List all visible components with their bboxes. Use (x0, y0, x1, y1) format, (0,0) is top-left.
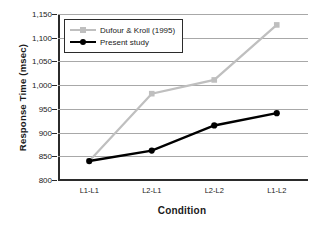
data-point-0-3 (274, 22, 280, 28)
data-point-1-1 (149, 147, 155, 153)
y-tick-mark (52, 38, 57, 39)
y-tick-mark (52, 133, 57, 134)
legend-item-series-1: Present study (70, 36, 175, 48)
x-tick-label: L1-L2 (247, 186, 307, 195)
legend-marker-circle-icon (80, 39, 86, 45)
y-tick-mark (52, 85, 57, 86)
x-tick-label: L2-L1 (122, 186, 182, 195)
legend-item-series-0: Dufour & Kroll (1995) (70, 24, 175, 36)
y-tick-mark (52, 180, 57, 181)
x-tick-label: L1-L1 (59, 186, 119, 195)
data-point-1-3 (274, 110, 280, 116)
data-point-1-0 (86, 158, 92, 164)
x-axis-title: Condition (58, 205, 306, 216)
data-point-0-2 (211, 77, 217, 83)
series-line-1 (89, 113, 277, 161)
legend-swatch-square-icon (70, 25, 96, 35)
chart-legend: Dufour & Kroll (1995) Present study (64, 19, 183, 53)
legend-swatch-circle-icon (70, 37, 96, 47)
y-tick-mark (52, 14, 57, 15)
data-point-0-1 (149, 91, 155, 97)
x-tick-label: L2-L2 (184, 186, 244, 195)
chart-container: Response Time (msec) 8008509009501,0001,… (0, 0, 319, 229)
legend-label-series-1: Present study (100, 38, 149, 47)
legend-marker-square-icon (80, 27, 86, 33)
y-tick-mark (52, 109, 57, 110)
data-point-1-2 (211, 122, 217, 128)
y-tick-mark (52, 61, 57, 62)
y-tick-mark (52, 156, 57, 157)
legend-label-series-0: Dufour & Kroll (1995) (100, 26, 175, 35)
